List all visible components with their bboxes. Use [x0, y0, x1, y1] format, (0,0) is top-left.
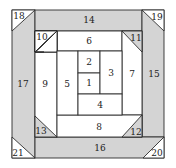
- label-9: 9: [42, 79, 48, 89]
- label-2: 2: [86, 57, 92, 67]
- quilt-block-diagram: 1 2 3 4 5 6 7 8 9 10 11 12 13 14 15 16 1…: [0, 0, 176, 168]
- label-8: 8: [96, 122, 102, 132]
- label-4: 4: [97, 100, 103, 110]
- label-1: 1: [86, 78, 92, 88]
- label-6: 6: [86, 36, 92, 46]
- label-21: 21: [12, 148, 23, 158]
- label-15: 15: [148, 69, 160, 79]
- label-13: 13: [35, 126, 47, 136]
- label-7: 7: [129, 69, 135, 79]
- label-3: 3: [108, 68, 114, 78]
- label-18: 18: [13, 11, 25, 21]
- label-10: 10: [36, 32, 48, 42]
- label-5: 5: [64, 79, 70, 89]
- label-19: 19: [151, 12, 163, 22]
- label-11: 11: [130, 33, 141, 43]
- label-16: 16: [94, 143, 106, 153]
- label-12: 12: [130, 127, 141, 137]
- label-20: 20: [151, 148, 163, 158]
- label-17: 17: [17, 79, 29, 89]
- label-14: 14: [83, 15, 95, 25]
